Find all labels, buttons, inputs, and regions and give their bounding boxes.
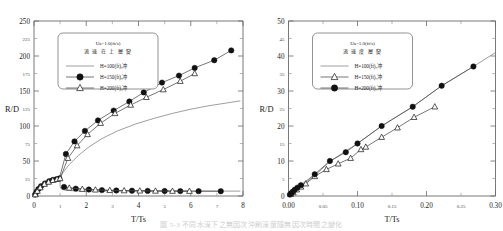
y-tick-label: 200 [19, 53, 30, 61]
data-point-circle [176, 73, 181, 78]
legend: Ua=1.0(ft/s)流 速 度 層 變H=100(ft),冲H=150(ft… [312, 33, 412, 92]
data-point-circle [343, 150, 348, 155]
y-tick-label: 100 [19, 123, 30, 131]
data-point-triangle [192, 70, 198, 75]
y-axis-title: R/D [5, 105, 19, 114]
x-tick-label: 4 [137, 202, 141, 210]
y-tick-label: 125 [23, 107, 31, 112]
legend-entry-label: H=100(ft),冲 [100, 62, 127, 70]
x-tick-label: 0.05 [318, 204, 327, 209]
legend-marker-circle [77, 74, 83, 80]
y-axis-title: R/D [259, 105, 273, 114]
y-tick-label: 10 [277, 158, 285, 166]
x-tick-label: 2 [84, 202, 88, 210]
x-tick-label: 0.10 [351, 202, 364, 210]
y-tick-label: 25 [25, 177, 31, 182]
figure-caption: 圖 5-3 不同水深下之無因次沖刷深度隨無因次時間之變化 [0, 218, 503, 231]
series-h-200-ft-decay [66, 185, 192, 194]
x-tick-label: 8 [241, 202, 245, 210]
data-point-triangle [411, 114, 417, 119]
x-tick-label: 0.20 [420, 202, 433, 210]
chart-panel-left: 0255075100125150175200225250012345678T/T… [0, 0, 252, 231]
data-point-triangle [177, 78, 183, 83]
x-tick-label: 1 [59, 204, 62, 209]
legend-entry-label: H=100(ft),冲 [354, 62, 381, 70]
x-tick-label: 6 [189, 202, 193, 210]
legend-header: Ua=1.0(ft/s) [350, 41, 375, 46]
y-tick-label: 25 [279, 107, 285, 112]
data-point-circle [61, 184, 66, 189]
data-point-circle [327, 158, 332, 163]
legend: Ua=1.0(ft/s)流 速 在 上 層 變H=100(ft),冲H=150(… [58, 33, 158, 92]
series-h-150-ft- [287, 104, 437, 197]
legend-entry-label: H=200(ft),冲 [354, 84, 381, 92]
data-point-triangle [153, 188, 159, 193]
data-point-triangle [335, 161, 341, 166]
series-h-100-ft-upper [59, 101, 241, 179]
y-tick-label: 175 [23, 72, 31, 77]
x-tick-label: 7 [216, 204, 219, 209]
data-point-circle [378, 123, 383, 128]
y-tick-label: 225 [23, 37, 31, 42]
data-point-triangle [378, 134, 384, 139]
legend-marker-circle [331, 85, 337, 91]
x-tick-label: 0 [32, 202, 36, 210]
y-tick-label: 250 [19, 18, 30, 26]
data-point-triangle [362, 144, 368, 149]
x-tick-label: 0.25 [456, 204, 465, 209]
y-tick-label: 5 [282, 177, 285, 182]
data-point-circle [354, 141, 359, 146]
data-point-circle [159, 80, 164, 85]
data-point-circle [229, 48, 234, 53]
data-point-circle [212, 58, 217, 63]
data-point-circle [470, 64, 475, 69]
y-tick-label: 15 [279, 142, 285, 147]
x-tick-label: 5 [163, 204, 166, 209]
y-tick-label: 20 [277, 123, 285, 131]
legend-subheader: 流 速 在 上 層 變 [84, 48, 132, 55]
data-point-triangle [160, 87, 166, 92]
y-tick-label: 50 [23, 158, 31, 166]
y-tick-label: 50 [277, 18, 285, 26]
legend-entry-label: H=150(ft),冲 [354, 73, 381, 81]
data-point-circle [438, 83, 443, 88]
data-point-circle [410, 104, 415, 109]
legend-entry-label: H=200(ft),冲 [100, 84, 127, 92]
x-tick-label: 0.30 [489, 202, 502, 210]
x-tick-label: 0.15 [387, 204, 396, 209]
right-chart-svg: 051015202530354045500.000.050.100.150.20… [252, 0, 503, 231]
data-point-triangle [347, 155, 353, 160]
left-chart-svg: 0255075100125150175200225250012345678T/T… [0, 0, 251, 231]
x-tick-label: 0.00 [282, 202, 295, 210]
data-point-circle [218, 189, 223, 194]
legend-entry-label: H=150(ft),冲 [100, 73, 127, 81]
data-point-circle [298, 182, 303, 187]
data-point-circle [312, 172, 317, 177]
y-tick-label: 0 [26, 193, 30, 201]
x-tick-label: 3 [111, 204, 114, 209]
y-tick-label: 75 [25, 142, 31, 147]
data-point-circle [196, 188, 201, 193]
y-tick-label: 0 [280, 193, 284, 201]
data-point-triangle [170, 188, 176, 193]
data-point-circle [141, 90, 146, 95]
data-point-triangle [431, 104, 437, 109]
y-tick-label: 30 [277, 88, 285, 96]
series-line [59, 101, 241, 179]
y-tick-label: 35 [279, 72, 285, 77]
y-tick-label: 40 [277, 53, 285, 61]
data-point-triangle [394, 125, 400, 130]
y-tick-label: 45 [279, 37, 285, 42]
legend-subheader: 流 速 度 層 變 [342, 48, 382, 55]
chart-panel-right: 051015202530354045500.000.050.100.150.20… [252, 0, 503, 231]
figure-container: 0255075100125150175200225250012345678T/T… [0, 0, 503, 231]
y-tick-label: 150 [19, 88, 30, 96]
legend-header: Ua=1.0(ft/s) [96, 41, 121, 46]
